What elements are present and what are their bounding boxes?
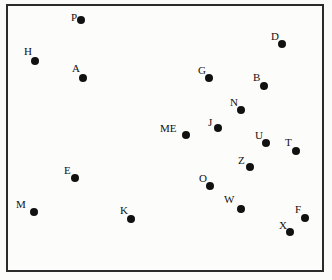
data-point [127,215,135,223]
data-point-label: E [64,165,71,176]
data-point-label: T [285,137,292,148]
data-point-label: U [255,130,263,141]
data-point-label: Z [238,155,245,166]
data-point [214,124,222,132]
data-point [77,16,85,24]
data-point [31,57,39,65]
data-point-label: H [24,46,32,57]
scatter-plot-figure: PDHAGBNJMEUTZEOWMKFX [0,0,332,280]
data-point-label: X [279,220,287,231]
data-point [30,208,38,216]
data-point [301,214,309,222]
data-point-label: G [198,65,206,76]
data-point [237,205,245,213]
data-point [260,82,268,90]
data-point-label: P [71,12,77,23]
data-point-label: W [224,194,234,205]
data-point-label: B [253,72,260,83]
data-point-label: M [16,199,26,210]
data-point [286,228,294,236]
data-point [237,106,245,114]
plot-area: PDHAGBNJMEUTZEOWMKFX [0,0,332,280]
data-point-label: ME [160,123,177,134]
data-point [182,131,190,139]
data-point [206,182,214,190]
data-point [292,147,300,155]
data-point [205,74,213,82]
data-point [262,139,270,147]
data-point-label: A [72,63,80,74]
data-point-label: J [208,117,212,128]
data-point [79,74,87,82]
data-point-label: D [271,31,279,42]
data-point-label: F [295,204,301,215]
data-point-label: K [120,205,128,216]
data-point [278,40,286,48]
data-point [246,163,254,171]
data-point-label: N [230,97,238,108]
data-point-label: O [199,173,207,184]
data-point [71,174,79,182]
